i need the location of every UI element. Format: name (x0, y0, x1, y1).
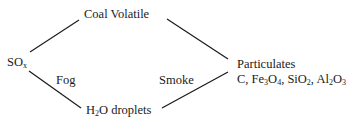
particulates-title: Particulates (237, 57, 295, 71)
composition-fe3o4-pre: C, Fe (237, 72, 264, 86)
edge-label-smoke: Smoke (159, 73, 194, 87)
edge-coal-volatile-particulates (167, 19, 228, 59)
node-h2o-droplets: H2O droplets (86, 103, 151, 117)
composition-al2o3-sub2: 3 (342, 78, 346, 87)
diagram-canvas: Coal Volatile SOx Fog H2O droplets Smoke… (0, 0, 356, 125)
node-sox-main: SO (7, 55, 23, 69)
node-h2o-pre: H (86, 103, 95, 117)
node-coal-volatile-text: Coal Volatile (84, 7, 149, 21)
edge-sox-coal-volatile (30, 20, 79, 52)
composition-sio2-pre: SiO (284, 72, 307, 86)
node-h2o-post: O droplets (99, 103, 151, 117)
node-coal-volatile: Coal Volatile (84, 7, 149, 21)
node-particulates-title: Particulates (237, 57, 295, 71)
composition-al2o3-pre: Al (314, 72, 329, 86)
composition-al2o3-mid: O (333, 72, 342, 86)
edge-label-fog: Fog (56, 73, 75, 87)
fog-label: Fog (56, 73, 75, 87)
connector-lines (0, 0, 356, 125)
node-sox: SOx (7, 55, 27, 69)
node-particulates-composition: C, Fe3O4, SiO2, Al2O3 (237, 72, 346, 86)
smoke-label: Smoke (159, 73, 194, 87)
node-sox-subscript: x (23, 61, 27, 70)
composition-fe3o4-mid: O (268, 72, 277, 86)
